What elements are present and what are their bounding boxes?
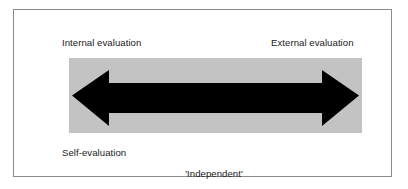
label-independent-internal-evaluation: 'Independent' internal evaluation: [144, 143, 284, 189]
figure-frame: Internal evaluation External evaluation …: [13, 9, 392, 177]
label-self-evaluation: Self-evaluation: [62, 147, 126, 159]
double-headed-arrow-icon: [69, 58, 362, 133]
label-external-evaluation: External evaluation: [271, 37, 354, 49]
arrow-shape: [72, 70, 359, 126]
label-independent-line-1: 'Independent': [144, 168, 284, 180]
label-internal-evaluation: Internal evaluation: [62, 37, 141, 49]
